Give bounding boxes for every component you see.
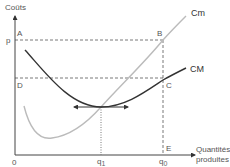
p-label: p (6, 36, 11, 45)
y-axis-label: Coûts (5, 3, 26, 12)
CM-curve-label: CM (190, 64, 204, 74)
point-B-label: B (157, 29, 162, 38)
origin-label: 0 (12, 158, 17, 167)
point-D-label: D (17, 81, 23, 90)
x-axis-label-line2: produites (196, 155, 229, 164)
cm-curve-label: Cm (191, 8, 205, 18)
x-axis-label-line1: Quantités (196, 145, 230, 154)
q1-label: q1 (97, 157, 105, 167)
point-E-label: E (166, 144, 171, 153)
average-cost-curve (25, 50, 186, 107)
cost-curves-chart: Coûts Quantités produites 0 q1 q0 p A B … (0, 0, 230, 167)
q0-label: q0 (159, 157, 167, 167)
point-A-label: A (17, 29, 23, 38)
point-C-label: C (166, 81, 172, 90)
